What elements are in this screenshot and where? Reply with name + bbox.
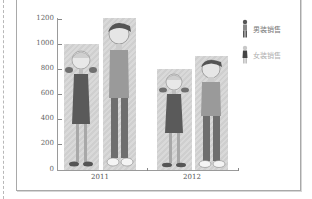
chart-legend: 男装销售 女装销售: [240, 18, 300, 70]
bar-2012-female: [157, 69, 192, 170]
bar-2011-female: [64, 44, 99, 170]
y-tick-label: 0: [24, 165, 54, 173]
x-tick: [147, 168, 148, 171]
x-category-label: 2012: [172, 173, 212, 181]
bar-2012-male: [195, 56, 228, 170]
x-tick: [238, 168, 239, 171]
female-figure-icon: [157, 69, 192, 170]
legend-item-female: 女装销售: [240, 44, 300, 66]
y-tick-label: 200: [24, 139, 54, 147]
legend-label-male: 男装销售: [253, 24, 281, 34]
legend-label-female: 女装销售: [253, 50, 281, 60]
legend-item-male: 男装销售: [240, 18, 300, 40]
bar-2011-male: [103, 18, 136, 170]
female-figure-icon: [240, 45, 250, 65]
y-tick-label: 800: [24, 64, 54, 72]
y-tick-label: 600: [24, 89, 54, 97]
x-category-label: 2011: [80, 173, 120, 181]
y-tick-label: 400: [24, 114, 54, 122]
y-tick: [58, 44, 62, 45]
male-figure-icon: [195, 56, 228, 170]
female-figure-icon: [64, 44, 99, 170]
y-tick: [58, 69, 62, 70]
y-tick: [58, 144, 62, 145]
male-figure-icon: [103, 18, 136, 170]
y-tick: [58, 119, 62, 120]
chart-plot-area: 1200 1000 800 600 400 200 0: [0, 0, 312, 199]
male-figure-icon: [240, 19, 250, 39]
y-tick-label: 1000: [24, 39, 54, 47]
y-tick-label: 1200: [24, 14, 54, 22]
y-tick: [58, 94, 62, 95]
y-tick: [58, 19, 62, 20]
x-axis: [57, 170, 239, 171]
